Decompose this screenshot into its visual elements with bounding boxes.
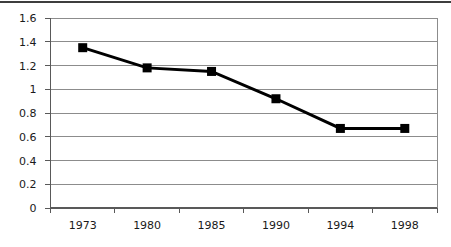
data-point-marker (143, 63, 152, 72)
data-point-marker (207, 67, 216, 76)
data-point-marker (400, 124, 409, 133)
x-axis-tick-label: 1973 (69, 219, 97, 232)
y-axis-tick-label: 1.4 (19, 36, 37, 49)
x-axis-tick-label: 1980 (133, 219, 161, 232)
y-axis-tick-label: 0.6 (19, 131, 37, 144)
data-point-marker (78, 43, 87, 52)
y-axis-tick-label: 0.4 (19, 155, 37, 168)
x-axis-tick-label: 1998 (391, 219, 419, 232)
y-axis-tick-label: 1.2 (19, 60, 37, 73)
line-chart: 00.20.40.60.811.21.41.619731980198519901… (0, 0, 451, 247)
y-axis-tick-label: 1 (30, 83, 37, 96)
y-axis-tick-label: 1.6 (19, 12, 37, 25)
data-point-marker (336, 124, 345, 133)
x-axis-tick-label: 1985 (198, 219, 226, 232)
x-axis-tick-label: 1994 (326, 219, 354, 232)
y-axis-tick-label: 0.2 (19, 178, 37, 191)
y-axis-tick-label: 0.8 (19, 107, 37, 120)
data-point-marker (271, 94, 280, 103)
y-axis-tick-label: 0 (30, 202, 37, 215)
chart-page: 00.20.40.60.811.21.41.619731980198519901… (0, 0, 451, 247)
x-axis-tick-label: 1990 (262, 219, 290, 232)
